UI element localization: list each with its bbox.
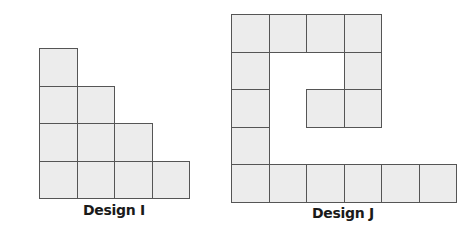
square-tile	[39, 86, 78, 125]
square-tile	[419, 164, 458, 203]
square-tile	[152, 161, 191, 200]
square-tile	[306, 14, 345, 53]
square-tile	[231, 52, 270, 91]
square-tile	[114, 123, 153, 162]
design-i-label: Design I	[83, 202, 145, 218]
square-tile	[344, 164, 383, 203]
square-tile	[269, 164, 308, 203]
square-tile	[381, 164, 420, 203]
square-tile	[344, 89, 383, 128]
square-tile	[231, 164, 270, 203]
square-tile	[77, 161, 116, 200]
square-tile	[231, 14, 270, 53]
square-tile	[306, 164, 345, 203]
square-tile	[269, 14, 308, 53]
square-tile	[344, 14, 383, 53]
design-j-label: Design J	[312, 205, 374, 221]
square-tile	[39, 161, 78, 200]
square-tile	[231, 89, 270, 128]
square-tile	[306, 89, 345, 128]
tile-designs-figure: Design I Design J	[0, 0, 476, 233]
square-tile	[77, 86, 116, 125]
square-tile	[39, 48, 78, 87]
square-tile	[77, 123, 116, 162]
square-tile	[114, 161, 153, 200]
square-tile	[231, 127, 270, 166]
square-tile	[344, 52, 383, 91]
square-tile	[39, 123, 78, 162]
